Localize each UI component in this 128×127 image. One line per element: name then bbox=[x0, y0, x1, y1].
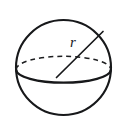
sphere-outline-circle bbox=[16, 20, 111, 115]
sphere-figure: r bbox=[0, 0, 128, 127]
sphere-diagram-canvas: r bbox=[0, 0, 128, 127]
radius-label: r bbox=[70, 34, 76, 50]
equator-back-dashed-arc bbox=[16, 56, 111, 69]
radius-line-segment bbox=[57, 32, 104, 78]
